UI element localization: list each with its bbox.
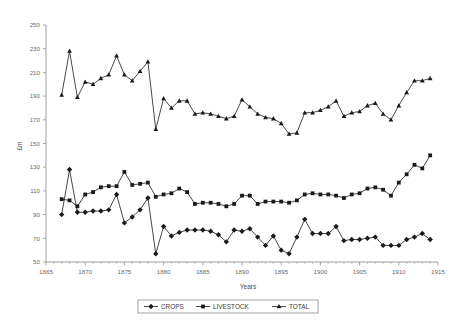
legend-item-label: LIVESTOCK [213,303,249,310]
square-marker-icon [83,193,87,197]
square-marker-icon [138,182,142,186]
diamond-marker-icon [114,192,119,197]
diamond-marker-icon [90,208,95,213]
y-tick-label: 190 [30,92,41,99]
square-marker-icon [342,196,346,200]
triangle-marker-icon [389,117,394,121]
triangle-marker-icon [428,76,433,80]
square-marker-icon [264,200,268,204]
triangle-marker-icon [240,97,245,101]
triangle-marker-icon [279,121,284,125]
square-marker-icon [240,194,244,198]
diamond-marker-icon [318,231,323,236]
series-total [59,49,432,136]
x-tick-label: 1915 [431,268,445,275]
diamond-marker-icon [302,217,307,222]
square-marker-icon [350,193,354,197]
square-marker-icon [75,204,79,208]
square-marker-icon [224,204,228,208]
triangle-marker-icon [200,110,205,114]
diamond-marker-icon [192,227,197,232]
x-tick-label: 1895 [274,268,288,275]
y-tick-label: 70 [33,235,40,242]
x-axis-title: Years [240,283,257,290]
diamond-marker-icon [279,247,284,252]
series-line [62,51,430,134]
x-axis: 1865187018751880188518901895190019051910… [39,262,445,275]
square-marker-icon [303,193,307,197]
y-tick-label: 50 [33,258,40,265]
diamond-marker-icon [106,207,111,212]
square-marker-icon [366,187,370,191]
triangle-marker-icon [396,103,401,107]
square-marker-icon [170,191,174,195]
square-marker-icon [413,163,417,167]
square-marker-icon [162,193,166,197]
agricultural-output-line-chart: 507090110130150170190210230250 186518701… [0,0,455,324]
square-marker-icon [185,190,189,194]
square-marker-icon [287,201,291,205]
square-marker-icon [177,187,181,191]
square-marker-icon [319,193,323,197]
diamond-marker-icon [75,210,80,215]
diamond-marker-icon [357,237,362,242]
diamond-marker-icon [349,237,354,242]
x-tick-label: 1870 [78,268,92,275]
square-marker-icon [373,185,377,189]
triangle-marker-icon [122,72,127,76]
square-marker-icon [248,194,252,198]
diamond-marker-icon [310,231,315,236]
square-marker-icon [91,190,95,194]
x-tick-label: 1875 [118,268,132,275]
series-livestock [60,153,432,208]
x-tick-label: 1910 [392,268,406,275]
triangle-marker-icon [334,98,339,102]
diamond-marker-icon [200,227,205,232]
y-axis-title: £m [16,141,23,151]
square-marker-icon [334,194,338,198]
square-marker-icon [326,193,330,197]
y-tick-label: 210 [30,69,41,76]
y-tick-label: 110 [30,187,40,194]
x-tick-label: 1905 [353,268,367,275]
diamond-marker-icon [231,227,236,232]
legend-item-label: TOTAL [289,303,309,310]
diamond-marker-icon [67,167,72,172]
x-tick-label: 1900 [314,268,328,275]
diamond-marker-icon [98,208,103,213]
square-marker-icon [99,185,103,189]
square-marker-icon [381,188,385,192]
square-marker-icon [271,200,275,204]
triangle-marker-icon [232,114,237,118]
diamond-marker-icon [365,236,370,241]
square-marker-icon [217,202,221,206]
square-marker-icon [193,202,197,206]
y-axis: 507090110130150170190210230250 [30,21,46,265]
chart-figure: 507090110130150170190210230250 186518701… [0,0,455,324]
diamond-marker-icon [388,243,393,248]
triangle-marker-icon [146,59,151,63]
square-marker-icon [405,172,409,176]
diamond-marker-icon [286,251,291,256]
y-tick-label: 150 [30,140,41,147]
triangle-marker-icon [161,96,166,100]
diamond-marker-icon [59,212,64,217]
diamond-marker-icon [177,230,182,235]
square-marker-icon [115,184,119,188]
triangle-marker-icon [114,53,119,57]
square-marker-icon [123,170,127,174]
series-crops [59,167,433,257]
y-tick-label: 90 [33,211,40,218]
legend-item-label: CROPS [161,303,184,310]
triangle-marker-icon [83,79,88,83]
diamond-marker-icon [83,210,88,215]
diamond-marker-icon [239,228,244,233]
square-marker-icon [397,181,401,185]
y-tick-label: 250 [30,21,41,28]
chart-legend: CROPSLIVESTOCKTOTAL [138,300,318,313]
triangle-marker-icon [67,49,72,53]
x-tick-label: 1880 [157,268,171,275]
square-marker-icon [389,194,393,198]
triangle-marker-icon [295,130,300,134]
square-marker-icon [311,191,315,195]
